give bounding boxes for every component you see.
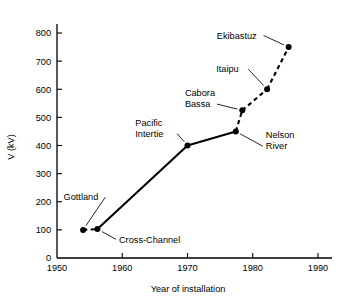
- series-segment: [236, 110, 243, 131]
- point-label: Ekibastuz: [217, 31, 257, 41]
- series-segment: [267, 47, 289, 89]
- label-leader-line: [102, 231, 116, 239]
- label-leader-line: [217, 104, 237, 109]
- y-tick-label: 400: [36, 141, 51, 151]
- point-label: Cross-Channel: [119, 235, 180, 245]
- data-point-marker: [94, 226, 100, 232]
- y-tick-label: 200: [36, 197, 51, 207]
- y-tick-label: 0: [46, 253, 51, 263]
- y-axis: 0100200300400500600700800: [36, 24, 62, 263]
- x-axis-title: Year of installation: [151, 284, 226, 294]
- y-tick-label: 700: [36, 57, 51, 67]
- point-label: Itaipu: [216, 64, 238, 74]
- label-leader-line: [264, 35, 285, 45]
- label-leaders: [86, 35, 284, 239]
- y-tick-label: 300: [36, 169, 51, 179]
- y-tick-label: 100: [36, 225, 51, 235]
- label-leader-line: [240, 134, 263, 146]
- series-segment: [97, 146, 187, 230]
- data-point-marker: [239, 107, 245, 113]
- x-axis: 19501960197019801990: [47, 253, 332, 273]
- data-markers: [80, 44, 292, 233]
- label-leader-line: [177, 134, 184, 142]
- data-point-marker: [286, 44, 292, 50]
- data-point-marker: [233, 128, 239, 134]
- x-tick-label: 1990: [308, 263, 328, 273]
- point-label: PacificIntertie: [135, 118, 163, 139]
- y-tick-label: 500: [36, 113, 51, 123]
- series-segment: [242, 89, 267, 110]
- y-tick-group: 0100200300400500600700800: [36, 28, 62, 263]
- y-tick-label: 800: [36, 28, 51, 38]
- chart-canvas: 0100200300400500600700800 19501960197019…: [0, 0, 348, 302]
- y-axis-title: V (kV): [6, 134, 16, 160]
- data-point-marker: [264, 86, 270, 92]
- y-tick-label: 600: [36, 85, 51, 95]
- hvdc-voltage-chart: 0100200300400500600700800 19501960197019…: [0, 0, 348, 302]
- label-leader-line: [248, 69, 263, 85]
- x-tick-label: 1980: [243, 263, 263, 273]
- data-point-marker: [185, 143, 191, 149]
- x-tick-group: 19501960197019801990: [47, 253, 328, 273]
- x-tick-label: 1960: [112, 263, 132, 273]
- point-labels: GottlandCross-ChannelPacificIntertieNels…: [64, 31, 295, 245]
- data-series: [83, 47, 289, 230]
- x-tick-label: 1950: [47, 263, 67, 273]
- point-label: CaboraBassa: [185, 88, 216, 109]
- point-label: NelsonRiver: [266, 130, 295, 151]
- data-point-marker: [80, 227, 86, 233]
- point-label: Gottland: [64, 192, 99, 202]
- x-tick-label: 1970: [177, 263, 197, 273]
- series-segment: [188, 131, 236, 145]
